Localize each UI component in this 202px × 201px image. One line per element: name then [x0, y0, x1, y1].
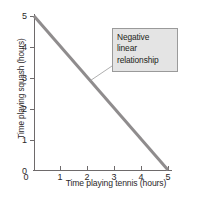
- chart-figure: Time playing squash (hours) 5 4 3 2 1 0 …: [0, 0, 202, 201]
- annotation-callout: Negative linear relationship: [112, 28, 178, 72]
- annotation-leader-line: [90, 66, 112, 81]
- annotation-line-1: Negative: [117, 32, 177, 43]
- x-axis-title: Time playing tennis (hours): [36, 178, 196, 188]
- annotation-line-3: relationship: [117, 55, 177, 66]
- annotation-line-2: linear: [117, 43, 177, 54]
